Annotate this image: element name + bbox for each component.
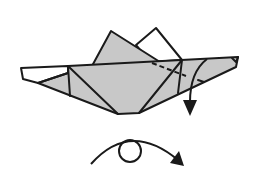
origami-diagram bbox=[0, 0, 253, 171]
turn-over-icon bbox=[91, 140, 184, 166]
folded-model bbox=[21, 28, 238, 114]
